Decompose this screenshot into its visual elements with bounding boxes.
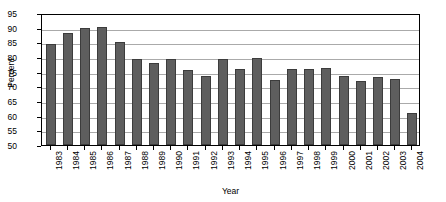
y-axis-tick-label: 90 [0,24,17,34]
bar [201,76,211,145]
x-axis-tick-label: 1985 [88,151,98,191]
bar [166,59,176,145]
x-axis-tick-mark [411,146,412,150]
x-axis-tick-mark [205,146,206,150]
bar [46,44,56,145]
y-axis-tick-mark [37,146,41,147]
x-axis-tick-mark [170,146,171,150]
x-axis-tick-label: 1983 [54,151,64,191]
bar-chart-screenshot: Percent 50556065707580859095 19831984198… [0,0,446,202]
y-axis-tick-label: 60 [0,112,17,122]
x-axis-tick-label: 1992 [209,151,219,191]
x-axis-tick-label: 1999 [329,151,339,191]
bar [287,69,297,145]
bar [149,63,159,145]
bar [252,58,262,145]
x-axis-tick-label: 1997 [295,151,305,191]
x-axis-tick-mark [239,146,240,150]
x-axis-tick-label: 1990 [174,151,184,191]
x-axis-tick-label: 1998 [312,151,322,191]
bar [63,33,73,145]
bar [80,28,90,145]
x-axis-tick-label: 1996 [278,151,288,191]
x-axis-tick-mark [84,146,85,150]
x-axis-tick-mark [308,146,309,150]
bar [407,113,417,145]
bar [390,79,400,145]
x-axis-tick-label: 1987 [123,151,133,191]
bar [218,59,228,145]
y-axis-tick-label: 70 [0,82,17,92]
y-axis-tick-label: 85 [0,38,17,48]
y-axis-tick-label: 55 [0,126,17,136]
x-axis-tick-mark [377,146,378,150]
x-axis-tick-mark [325,146,326,150]
y-axis-tick-label: 50 [0,141,17,151]
x-axis-tick-mark [274,146,275,150]
x-axis-tick-label: 1989 [157,151,167,191]
y-axis-tick-label: 75 [0,68,17,78]
x-axis-tick-label: 2003 [398,151,408,191]
x-axis-tick-label: 2001 [364,151,374,191]
x-axis-tick-mark [343,146,344,150]
y-axis-tick-label: 65 [0,97,17,107]
x-axis-tick-label: 1984 [71,151,81,191]
x-axis-tick-mark [187,146,188,150]
x-axis-tick-mark [222,146,223,150]
y-axis-tick-label: 80 [0,53,17,63]
x-axis-tick-mark [256,146,257,150]
x-axis-tick-mark [101,146,102,150]
bar [373,77,383,145]
x-axis-tick-label: 1993 [226,151,236,191]
bar [321,68,331,145]
bar [235,69,245,145]
x-axis-tick-label: 2004 [415,151,425,191]
bar [97,27,107,145]
plot-area [41,14,420,146]
x-axis-tick-mark [67,146,68,150]
x-axis-tick-mark [360,146,361,150]
x-axis-tick-label: 2002 [381,151,391,191]
bar [356,81,366,145]
bar [183,70,193,145]
x-axis-tick-label: 2000 [347,151,357,191]
x-axis-tick-mark [50,146,51,150]
x-axis-tick-mark [394,146,395,150]
x-axis-title: Year [41,186,420,196]
bar [115,42,125,145]
bar [304,69,314,145]
bar [270,80,280,145]
x-axis-tick-label: 1986 [105,151,115,191]
x-axis-tick-label: 1991 [191,151,201,191]
x-axis-tick-mark [136,146,137,150]
x-axis-tick-label: 1994 [243,151,253,191]
x-axis-tick-label: 1988 [140,151,150,191]
bar [339,76,349,146]
x-axis-tick-mark [153,146,154,150]
x-axis-tick-mark [291,146,292,150]
y-axis-tick-label: 95 [0,9,17,19]
x-axis-tick-label: 1995 [260,151,270,191]
x-axis-tick-mark [119,146,120,150]
bar [132,59,142,145]
